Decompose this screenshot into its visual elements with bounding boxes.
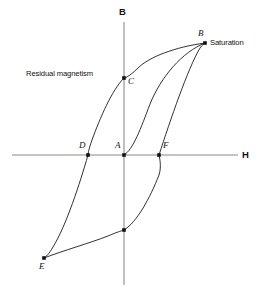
point-label-f: F [163, 141, 169, 150]
point-label-e: E [39, 262, 45, 271]
point-marker-a [122, 153, 126, 157]
annotation-saturation: Saturation [210, 39, 244, 47]
point-marker-c [122, 76, 126, 80]
point-marker-d [86, 153, 90, 157]
hysteresis-diagram: B H A B C D E F Saturation Residual magn… [0, 0, 275, 294]
axis-label-b: B [119, 7, 126, 17]
axis-label-h: H [242, 150, 249, 160]
point-marker-negative-remanence [122, 228, 126, 232]
point-label-c: C [128, 77, 134, 86]
point-label-d: D [79, 141, 86, 150]
point-label-a: A [115, 141, 121, 150]
annotation-residual-magnetism: Residual magnetism [26, 70, 93, 78]
point-marker-b [203, 41, 207, 45]
point-marker-f [157, 153, 161, 157]
point-marker-e [42, 256, 46, 260]
point-label-b: B [198, 29, 204, 38]
